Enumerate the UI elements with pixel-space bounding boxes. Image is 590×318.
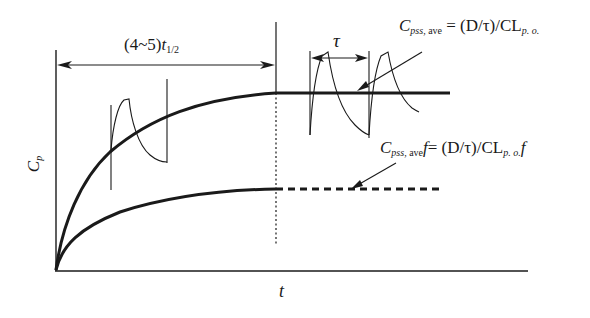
- formula-bottom-c: C: [380, 138, 391, 157]
- tau-label: τ: [333, 30, 340, 52]
- formula-top-c: C: [399, 16, 410, 35]
- formula-bottom-sub-it: pss,: [391, 147, 406, 158]
- formula-top-sub-it: pss,: [410, 25, 425, 36]
- interval-label: (4~5)t1/2: [124, 35, 179, 55]
- formula-top-rhs-sub: p. o.: [522, 25, 540, 36]
- x-axis-label: t: [279, 281, 284, 302]
- formula-top-rhs: = (D/τ)/CL: [442, 16, 522, 35]
- interval-label-prefix: (4~5): [124, 35, 162, 54]
- formula-top: Cpss, ave = (D/τ)/CLp. o.: [399, 16, 539, 36]
- lower-accumulation-curve: [56, 189, 276, 270]
- formula-bottom: Cpss, avef= (D/τ)/CLp. o.f: [380, 138, 525, 158]
- formula-top-sub-rm: ave: [426, 25, 442, 36]
- formula-bottom-rhs-f: f: [521, 138, 526, 157]
- y-axis-label-sub: p: [33, 156, 44, 161]
- formula-bottom-sub-rm: ave: [407, 147, 423, 158]
- y-axis-label-main: C: [24, 161, 43, 172]
- formula-bottom-rhs-sub: p. o.: [503, 147, 521, 158]
- bottom-formula-pointer: [356, 163, 396, 186]
- formula-bottom-rhs: = (D/τ)/CL: [428, 138, 503, 157]
- interval-label-sub: 1/2: [166, 44, 179, 55]
- top-formula-pointer: [362, 52, 422, 88]
- pharmacokinetic-diagram: [0, 0, 590, 318]
- y-axis-label: Cp: [24, 156, 44, 172]
- top-formula-pointer-head: [357, 81, 369, 91]
